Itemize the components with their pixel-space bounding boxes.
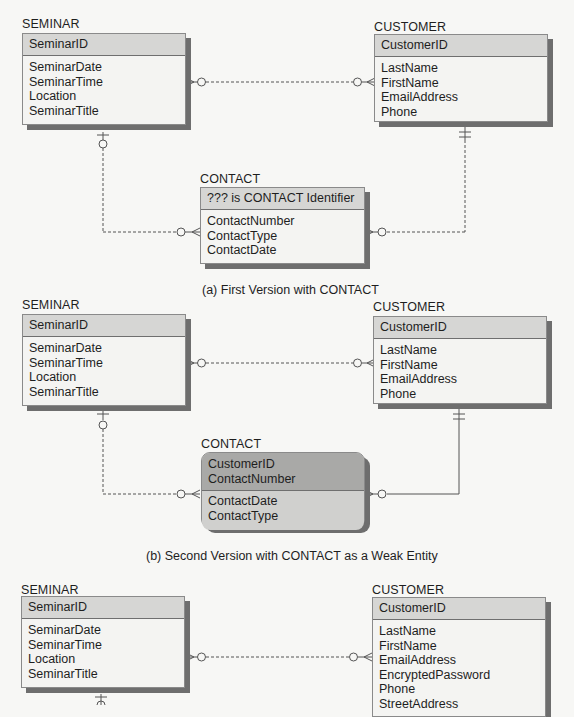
primary-key: SeminarID — [23, 34, 185, 56]
attribute-list: SeminarDate SeminarTime Location Seminar… — [23, 56, 185, 118]
entity-customer[interactable]: CustomerID LastName FirstName EmailAddre… — [373, 316, 547, 404]
attribute: FirstName — [381, 76, 541, 91]
primary-key: SeminarID — [22, 597, 184, 619]
primary-key: CustomerID — [375, 35, 547, 57]
attribute: SeminarDate — [29, 341, 179, 356]
attribute: Location — [29, 89, 179, 104]
attribute: EncryptedPassword — [379, 668, 539, 683]
attribute: ContactNumber — [207, 214, 358, 229]
attribute: LastName — [379, 624, 539, 639]
caption-a: (a) First Version with CONTACT — [202, 283, 379, 297]
attribute: LastName — [380, 343, 540, 358]
entity-customer[interactable]: CustomerID LastName FirstName EmailAddre… — [372, 597, 546, 717]
attribute-list: ContactNumber ContactType ContactDate — [201, 210, 364, 258]
attribute-list: SeminarDate SeminarTime Location Seminar… — [22, 619, 184, 681]
attribute-list: LastName FirstName EmailAddress Phone — [374, 339, 546, 401]
attribute: ContactType — [207, 229, 358, 244]
attribute: Phone — [380, 387, 540, 402]
entity-seminar[interactable]: SeminarID SeminarDate SeminarTime Locati… — [22, 33, 186, 125]
entity-customer[interactable]: CustomerID LastName FirstName EmailAddre… — [374, 34, 548, 122]
attribute: SeminarTime — [28, 638, 178, 653]
attribute: LastName — [381, 61, 541, 76]
attribute: SeminarTime — [29, 356, 179, 371]
attribute: EmailAddress — [379, 653, 539, 668]
entity-seminar[interactable]: SeminarID SeminarDate SeminarTime Locati… — [21, 596, 185, 688]
entity-contact[interactable]: ??? is CONTACT Identifier ContactNumber … — [200, 187, 365, 264]
attribute: SeminarTitle — [29, 104, 179, 119]
primary-key: CustomerID — [373, 598, 545, 620]
attribute: SeminarTime — [29, 75, 179, 90]
attribute: StreetAddress — [379, 697, 539, 712]
attribute-list: LastName FirstName EmailAddress Phone — [375, 57, 547, 119]
attribute: FirstName — [380, 358, 540, 373]
attribute-list: ContactDate ContactType — [202, 491, 364, 530]
primary-key: SeminarID — [23, 315, 185, 337]
entity-seminar[interactable]: SeminarID SeminarDate SeminarTime Locati… — [22, 314, 186, 406]
key-attribute: ContactNumber — [208, 472, 358, 487]
primary-key: ??? is CONTACT Identifier — [201, 188, 364, 210]
key-attribute: CustomerID — [208, 457, 358, 472]
attribute: FirstName — [379, 639, 539, 654]
entity-contact-weak[interactable]: CustomerID ContactNumber ContactDate Con… — [201, 452, 365, 528]
primary-key: CustomerID — [374, 317, 546, 339]
attribute: SeminarTitle — [28, 667, 178, 682]
attribute: Location — [28, 652, 178, 667]
attribute: ContactDate — [208, 494, 358, 509]
attribute: SeminarDate — [28, 623, 178, 638]
attribute: Phone — [379, 682, 539, 697]
attribute: Location — [29, 370, 179, 385]
attribute: Phone — [381, 105, 541, 120]
attribute-list: SeminarDate SeminarTime Location Seminar… — [23, 337, 185, 399]
composite-primary-key: CustomerID ContactNumber — [202, 453, 364, 491]
attribute: EmailAddress — [381, 90, 541, 105]
attribute: EmailAddress — [380, 372, 540, 387]
attribute: SeminarDate — [29, 60, 179, 75]
attribute: SeminarTitle — [29, 385, 179, 400]
attribute-list: LastName FirstName EmailAddress Encrypte… — [373, 620, 545, 711]
attribute: ContactDate — [207, 243, 358, 258]
caption-b: (b) Second Version with CONTACT as a Wea… — [146, 549, 438, 563]
attribute: ContactType — [208, 509, 358, 524]
